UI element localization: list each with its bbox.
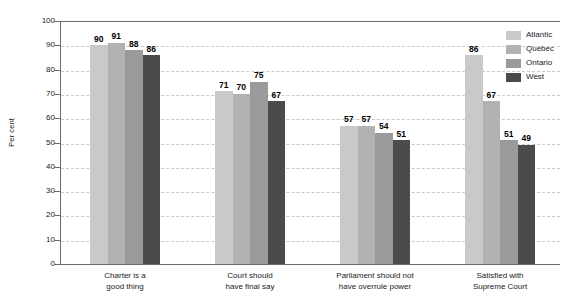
bar-value-label: 88 [129,40,138,49]
legend-item-label: Atlantic [526,31,552,39]
bar [358,126,376,265]
bar-column: 75 [250,21,268,264]
bar-group: 57575451 [340,21,410,264]
bar-value-label: 71 [219,81,228,90]
legend-item: Quebec [506,42,554,56]
bar-column: 88 [125,21,143,264]
y-axis-tick-label: 50 [15,139,55,147]
x-axis-category-label-line: Supreme Court [430,281,570,292]
legend-item: West [506,70,554,84]
bar [465,55,483,264]
bar-column: 67 [268,21,286,264]
legend-item: Ontario [506,56,554,70]
bar-column: 91 [108,21,126,264]
bar-value-label: 51 [504,130,513,139]
bar [125,50,143,264]
legend-color-swatch [506,73,521,82]
bar-value-label: 86 [469,45,478,54]
y-axis-tick-label: 0 [15,260,55,268]
bar-column: 67 [483,21,501,264]
legend-item-label: West [526,73,544,81]
y-axis-tick-label: 60 [15,114,55,122]
y-axis-tick-label: 20 [15,211,55,219]
x-axis-category-label-line: have final say [180,281,320,292]
bar-value-label: 90 [94,35,103,44]
y-axis-tick-label: 100 [15,17,55,25]
bar-column: 90 [90,21,108,264]
x-axis-category-label-line: have overrule power [305,281,445,292]
bar-chart: Per cent 0102030405060708090100 90918886… [0,0,580,302]
bar-group: 90918886 [90,21,160,264]
y-axis-tick-label: 30 [15,187,55,195]
x-axis-category-label: Court shouldhave final say [180,270,320,292]
bar [233,94,251,264]
bar-value-label: 67 [272,91,281,100]
bar-group: 71707567 [215,21,285,264]
legend: AtlanticQuebecOntarioWest [506,28,554,84]
bar-value-label: 51 [397,130,406,139]
bar [483,101,501,264]
bar-value-label: 70 [237,83,246,92]
bar [143,55,161,264]
x-axis-category-label-line: Satisfied with [430,270,570,281]
x-axis-category-label: Satisfied withSupreme Court [430,270,570,292]
bar-value-label: 49 [522,134,531,143]
bar [500,140,518,264]
y-axis-tick-label: 80 [15,66,55,74]
bar-value-label: 86 [147,45,156,54]
y-axis-title: Per cent [2,0,20,265]
bar [268,101,286,264]
x-axis-category-labels: Charter is agood thingCourt shouldhave f… [60,270,560,300]
x-axis-category-label-line: Parliament should not [305,270,445,281]
y-axis-tick-label: 90 [15,41,55,49]
x-axis-category-label-line: Court should [180,270,320,281]
bar-value-label: 91 [112,32,121,41]
bar-column: 86 [465,21,483,264]
bar [518,145,536,264]
bar-value-label: 57 [344,115,353,124]
bar-value-label: 57 [362,115,371,124]
y-axis-tick-label: 70 [15,90,55,98]
bar [108,43,126,264]
bar-value-label: 67 [487,91,496,100]
bar-groups: 90918886717075675757545186675149 [60,21,560,264]
bar [215,91,233,264]
x-axis-category-label: Parliament should nothave overrule power [305,270,445,292]
bar-column: 70 [233,21,251,264]
bar-column: 57 [358,21,376,264]
legend-color-swatch [506,59,521,68]
legend-color-swatch [506,45,521,54]
bar [250,82,268,264]
bar [90,45,108,264]
bar-column: 57 [340,21,358,264]
x-axis-category-label: Charter is agood thing [55,270,195,292]
bar-column: 54 [375,21,393,264]
y-axis-tick-label: 40 [15,163,55,171]
bar-column: 51 [393,21,411,264]
bar-column: 71 [215,21,233,264]
bar-column: 86 [143,21,161,264]
bar-value-label: 75 [254,71,263,80]
legend-item-label: Quebec [526,45,554,53]
bar [393,140,411,264]
legend-item: Atlantic [506,28,554,42]
legend-item-label: Ontario [526,59,552,67]
bar [340,126,358,265]
legend-color-swatch [506,31,521,40]
x-axis-category-label-line: good thing [55,281,195,292]
y-axis-tick-label: 10 [15,236,55,244]
bar-value-label: 54 [379,122,388,131]
bar [375,133,393,264]
x-axis-category-label-line: Charter is a [55,270,195,281]
